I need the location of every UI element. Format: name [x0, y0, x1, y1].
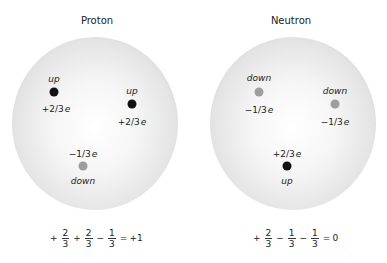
fraction: 23 — [62, 228, 70, 249]
neutron-quark-2-charge: −1/3e — [321, 117, 350, 127]
equation-sign: − — [300, 233, 308, 243]
proton-up-quark-1-dot — [50, 88, 59, 97]
numerator: 2 — [85, 228, 93, 239]
charge-unit: e — [65, 104, 71, 114]
neutron-down-quark-2-dot — [331, 100, 340, 109]
proton-panel: Proton up +2/3e up +2/3e −1/3e down + 23… — [0, 0, 194, 263]
neutron-charge-equation: + 23 − 13 − 13 = 0 — [251, 226, 338, 250]
equation-sign: + — [73, 233, 81, 243]
proton-title: Proton — [0, 15, 194, 26]
charge-value: +2/3 — [273, 149, 295, 159]
proton-quark-2-charge: +2/3e — [118, 117, 147, 127]
neutron-quark-1-flavor: down — [247, 73, 271, 83]
proton-down-quark-dot — [79, 162, 88, 171]
charge-unit: e — [268, 105, 274, 115]
charge-unit: e — [141, 117, 147, 127]
equation-sign: + — [50, 233, 58, 243]
neutron-quark-3-flavor: up — [281, 176, 292, 186]
neutron-panel: Neutron down −1/3e down −1/3e +2/3e up +… — [194, 0, 387, 263]
equals-sign: = — [323, 233, 331, 243]
equation-result: 0 — [332, 233, 338, 243]
equation-result: +1 — [129, 233, 142, 243]
fraction: 13 — [108, 228, 116, 249]
proton-quark-3-flavor: down — [71, 176, 95, 186]
charge-unit: e — [92, 149, 98, 159]
neutron-quark-1-charge: −1/3e — [245, 105, 274, 115]
denominator: 3 — [312, 239, 318, 249]
fraction: 23 — [265, 228, 273, 249]
neutron-title: Neutron — [194, 15, 387, 26]
proton-quark-3-charge: −1/3e — [69, 149, 98, 159]
equation-sign: + — [253, 233, 261, 243]
charge-value: +2/3 — [42, 104, 64, 114]
neutron-quark-3-charge: +2/3e — [273, 149, 302, 159]
charge-value: −1/3 — [245, 105, 267, 115]
equals-sign: = — [120, 233, 128, 243]
numerator: 2 — [62, 228, 70, 239]
equation-sign: − — [276, 233, 284, 243]
numerator: 1 — [288, 228, 296, 239]
neutron-sphere — [210, 37, 376, 210]
charge-unit: e — [296, 149, 302, 159]
denominator: 3 — [86, 239, 92, 249]
charge-value: +2/3 — [118, 117, 140, 127]
numerator: 2 — [265, 228, 273, 239]
fraction: 13 — [311, 228, 319, 249]
charge-value: −1/3 — [69, 149, 91, 159]
neutron-up-quark-dot — [283, 162, 292, 171]
numerator: 1 — [311, 228, 319, 239]
proton-quark-2-flavor: up — [126, 86, 137, 96]
neutron-down-quark-1-dot — [255, 88, 264, 97]
fraction: 23 — [85, 228, 93, 249]
proton-quark-1-charge: +2/3e — [42, 104, 71, 114]
proton-up-quark-2-dot — [128, 100, 137, 109]
fraction: 13 — [288, 228, 296, 249]
equation-sign: − — [97, 233, 105, 243]
denominator: 3 — [266, 239, 272, 249]
denominator: 3 — [289, 239, 295, 249]
denominator: 3 — [63, 239, 69, 249]
proton-charge-equation: + 23 + 23 − 13 = +1 — [48, 226, 143, 250]
charge-unit: e — [344, 117, 350, 127]
proton-quark-1-flavor: up — [48, 74, 59, 84]
charge-value: −1/3 — [321, 117, 343, 127]
numerator: 1 — [108, 228, 116, 239]
denominator: 3 — [109, 239, 115, 249]
neutron-quark-2-flavor: down — [323, 86, 347, 96]
